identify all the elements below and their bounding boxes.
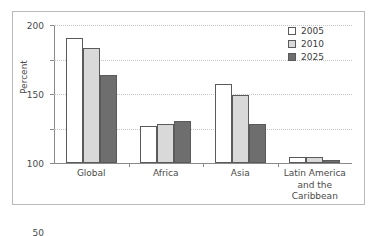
category-label-global: Global	[54, 168, 129, 180]
bar-2010-latin-america-and-the-caribbean	[306, 157, 323, 163]
legend-item-2010[interactable]: 2010	[288, 37, 324, 50]
bar-2025-global	[100, 75, 117, 163]
chart-legend: 200520102025	[288, 24, 324, 63]
bar-2005-asia	[215, 84, 232, 163]
y-tick-label: 200	[27, 21, 44, 31]
bar-2025-africa	[174, 121, 191, 163]
legend-label: 2010	[301, 39, 324, 49]
category-label-line: Global	[54, 168, 129, 180]
bar-group-global	[66, 25, 117, 163]
bar-2005-latin-america-and-the-caribbean	[289, 157, 306, 163]
x-tick-mark	[278, 163, 279, 167]
y-tick-mark: 0	[50, 163, 54, 164]
legend-label: 2005	[301, 26, 324, 36]
category-label-asia: Asia	[203, 168, 278, 180]
x-axis-line	[50, 163, 352, 164]
y-tick-mark: 150	[50, 60, 54, 61]
bar-2010-africa	[157, 124, 174, 163]
legend-item-2025[interactable]: 2025	[288, 50, 324, 63]
category-label-line: Caribbean	[278, 191, 353, 203]
y-tick-label: 100	[27, 159, 44, 169]
category-label-line: Africa	[129, 168, 204, 180]
y-tick-mark: 50	[50, 129, 54, 130]
legend-swatch-2025	[288, 53, 296, 61]
legend-label: 2025	[301, 52, 324, 62]
category-label-africa: Africa	[129, 168, 204, 180]
bar-group-asia	[215, 25, 266, 163]
bar-2010-asia	[232, 95, 249, 163]
x-tick-mark	[129, 163, 130, 167]
y-tick-mark: 100	[50, 94, 54, 95]
bar-2025-latin-america-and-the-caribbean	[323, 160, 340, 163]
category-label-line: Asia	[203, 168, 278, 180]
x-tick-mark	[203, 163, 204, 167]
bar-2005-global	[66, 38, 83, 163]
bar-2005-africa	[140, 126, 157, 163]
category-label-line: and the	[278, 180, 353, 192]
y-axis-label: Percent	[19, 60, 29, 94]
legend-swatch-2005	[288, 27, 296, 35]
y-tick-label: 150	[27, 90, 44, 100]
bar-group-africa	[140, 25, 191, 163]
bar-2025-asia	[249, 124, 266, 163]
legend-swatch-2010	[288, 40, 296, 48]
chart-figure: Percent 050100150200 GlobalAfricaAsiaLat…	[0, 0, 391, 222]
category-label-latin-america-and-the-caribbean: Latin Americaand theCaribbean	[278, 168, 353, 203]
bar-2010-global	[83, 48, 100, 163]
y-tick-mark: 200	[50, 25, 54, 26]
category-label-line: Latin America	[278, 168, 353, 180]
legend-item-2005[interactable]: 2005	[288, 24, 324, 37]
